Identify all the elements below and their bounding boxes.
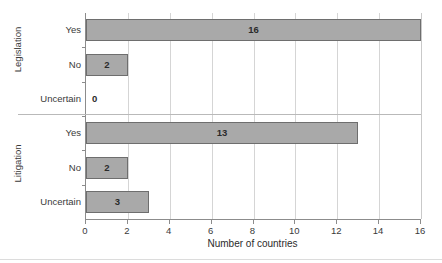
bar-row: 2	[86, 54, 421, 76]
gridline	[295, 13, 296, 219]
x-axis-tick	[85, 220, 86, 224]
x-axis-tick	[211, 220, 212, 224]
x-axis-tick	[336, 220, 337, 224]
x-axis-tick-label: 10	[279, 225, 309, 236]
x-axis-tick	[378, 220, 379, 224]
y-axis-tick	[82, 116, 86, 117]
x-axis-tick-label: 6	[196, 225, 226, 236]
bar-chart-figure: 16201323 YesNoUncertainYesNoUncertain Le…	[0, 0, 442, 263]
bar-value-label: 13	[86, 122, 358, 144]
gridline	[212, 13, 213, 219]
bar-row: 2	[86, 157, 421, 179]
gridline	[421, 13, 422, 219]
x-axis-tick-label: 14	[363, 225, 393, 236]
gridline	[379, 13, 380, 219]
group-label-litigation: Litigation	[12, 114, 23, 214]
x-axis-title: Number of countries	[85, 238, 420, 249]
x-axis-tick-label: 4	[154, 225, 184, 236]
x-axis-tick-label: 2	[112, 225, 142, 236]
x-axis-tick	[253, 220, 254, 224]
group-label-legislation: Legislation	[12, 0, 23, 100]
x-axis-tick-label: 12	[321, 225, 351, 236]
y-axis-tick	[82, 185, 86, 186]
x-axis-tick-label: 8	[238, 225, 268, 236]
bar-row: 13	[86, 122, 421, 144]
bar-row: 16	[86, 19, 421, 41]
bar-value-label: 3	[86, 191, 149, 213]
bar-value-label: 16	[86, 19, 421, 41]
x-axis-tick	[127, 220, 128, 224]
bottom-rule	[0, 259, 442, 260]
gridline	[170, 13, 171, 219]
x-axis-tick	[420, 220, 421, 224]
bar-row: 0	[86, 88, 421, 110]
bar-value-label: 2	[86, 54, 128, 76]
y-axis-tick	[82, 150, 86, 151]
gridline	[254, 13, 255, 219]
y-axis-tick	[82, 47, 86, 48]
gridline	[128, 13, 129, 219]
x-axis-tick-label: 16	[405, 225, 435, 236]
bar-value-label: 2	[86, 157, 128, 179]
x-axis-tick-label: 0	[70, 225, 100, 236]
bar-row: 3	[86, 191, 421, 213]
x-axis: 0246810121416	[85, 220, 421, 240]
y-axis-tick	[82, 82, 86, 83]
plot-area: 16201323	[85, 13, 421, 220]
bar-value-label: 0	[92, 88, 108, 110]
gridline	[337, 13, 338, 219]
x-axis-tick	[294, 220, 295, 224]
x-axis-tick	[169, 220, 170, 224]
